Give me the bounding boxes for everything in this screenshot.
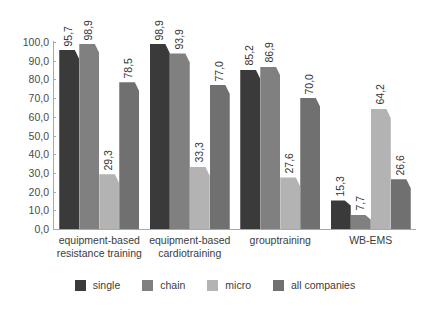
y-axis-tick-mark [53,229,56,230]
x-axis-category-label: WB-EMS [326,234,417,247]
y-axis-tick-label: 50,0 [3,130,49,141]
plot-area: 95,798,929,378,598,993,933,377,085,286,9… [54,42,416,229]
bar-group: 15,37,764,226,6 [331,42,411,229]
y-axis-tick-label: 60,0 [3,112,49,123]
legend-item-micro[interactable]: micro [207,280,251,291]
bar: 85,2 [240,70,260,229]
bar-rect [331,200,351,229]
bar-value-label: 98,9 [83,20,94,40]
legend-swatch-icon [273,280,284,291]
bar-rect [170,53,190,229]
bar: 7,7 [351,215,371,229]
y-axis-tick-mark [53,210,56,211]
x-axis-category-labels: equipment-basedresistance trainingequipm… [54,234,416,268]
bar: 78,5 [119,82,139,229]
bar: 95,7 [59,50,79,229]
y-axis-tick-mark [53,192,56,193]
x-axis-category-label-line: equipment-based [54,234,145,247]
bar-chart: 0,010,020,030,040,050,060,070,080,090,01… [0,0,430,312]
bar-rect [59,50,79,229]
x-axis-category-label-line: cardiotraining [145,247,236,260]
bar-rect [240,70,260,229]
legend-label: single [93,280,120,291]
x-axis-line [53,229,416,230]
y-axis-tick-label: 20,0 [3,186,49,197]
y-axis-tick-mark [53,98,56,99]
y-axis-tick-label: 80,0 [3,74,49,85]
bar-value-label: 70,0 [304,74,315,94]
y-axis-tick-label: 100,0 [3,37,49,48]
bar-value-label: 64,2 [374,85,385,105]
y-axis-tick-mark [53,117,56,118]
bar-rect [300,98,320,229]
bar-rect [79,44,99,229]
bar: 77,0 [210,85,230,229]
bar: 93,9 [170,53,190,229]
x-axis-category-label-line: equipment-based [145,234,236,247]
bar: 98,9 [150,44,170,229]
y-axis-tick-mark [53,79,56,80]
bar-value-label: 78,5 [123,58,134,78]
y-axis-tick-label: 70,0 [3,93,49,104]
bar: 26,6 [391,179,411,229]
bar-rect [119,82,139,229]
y-axis-tick-label: 30,0 [3,168,49,179]
y-axis-tick-mark [53,61,56,62]
bar-value-label: 95,7 [63,26,74,46]
bar-value-label: 29,3 [103,150,114,170]
legend-swatch-icon [207,280,218,291]
bar-value-label: 93,9 [173,29,184,49]
bar-value-label: 98,9 [153,20,164,40]
x-axis-category-label-line: grouptraining [235,234,326,247]
bar: 27,6 [280,177,300,229]
bar-value-label: 85,2 [244,45,255,65]
bar: 64,2 [371,109,391,229]
bar-value-label: 7,7 [354,196,365,211]
y-axis-tick-mark [53,173,56,174]
bar: 70,0 [300,98,320,229]
bar-value-label: 33,3 [193,142,204,162]
y-axis-tick-label: 10,0 [3,205,49,216]
bar-rect [210,85,230,229]
x-axis-category-label: equipment-basedcardiotraining [145,234,236,259]
bar-rect [150,44,170,229]
x-axis-category-label: grouptraining [235,234,326,247]
legend-label: chain [160,280,185,291]
bar-group: 98,993,933,377,0 [150,42,230,229]
y-axis-tick-mark [53,136,56,137]
bar-value-label: 27,6 [284,153,295,173]
y-axis-tick-mark [53,154,56,155]
legend-item-chain[interactable]: chain [142,280,185,291]
y-axis-tick-label: 90,0 [3,55,49,66]
legend-swatch-icon [75,280,86,291]
bar: 33,3 [190,167,210,229]
bar-rect [190,167,210,229]
bar-value-label: 77,0 [213,61,224,81]
y-axis-tick-labels: 0,010,020,030,040,050,060,070,080,090,01… [0,42,49,229]
bar: 86,9 [260,67,280,230]
bar-rect [391,179,411,229]
bar: 29,3 [99,174,119,229]
legend-swatch-icon [142,280,153,291]
bar-rect [371,109,391,229]
legend-label: all companies [291,280,355,291]
bar-value-label: 15,3 [334,176,345,196]
bar-rect [260,67,280,230]
bar-rect [280,177,300,229]
chart-legend: singlechainmicroall companies [0,280,430,291]
bar-value-label: 26,6 [394,155,405,175]
bar-rect [99,174,119,229]
y-axis-tick-label: 40,0 [3,149,49,160]
x-axis-category-label-line: resistance training [54,247,145,260]
bar: 98,9 [79,44,99,229]
y-axis-tick-mark [53,42,56,43]
legend-item-single[interactable]: single [75,280,120,291]
bar-value-label: 86,9 [264,42,275,62]
bar-group: 95,798,929,378,5 [59,42,139,229]
y-axis-tick-label: 0,0 [3,224,49,235]
bar: 15,3 [331,200,351,229]
x-axis-category-label: equipment-basedresistance training [54,234,145,259]
x-axis-category-label-line: WB-EMS [326,234,417,247]
legend-item-all-companies[interactable]: all companies [273,280,355,291]
legend-label: micro [225,280,251,291]
